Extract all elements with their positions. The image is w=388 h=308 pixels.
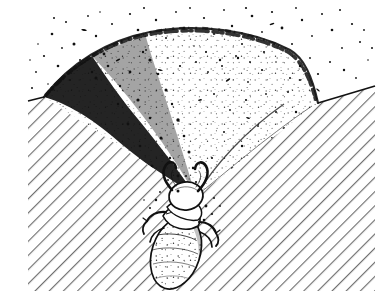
antlion-pit-illustration <box>0 0 388 308</box>
illustration-canvas <box>0 0 388 308</box>
antlion-eye <box>177 190 180 193</box>
